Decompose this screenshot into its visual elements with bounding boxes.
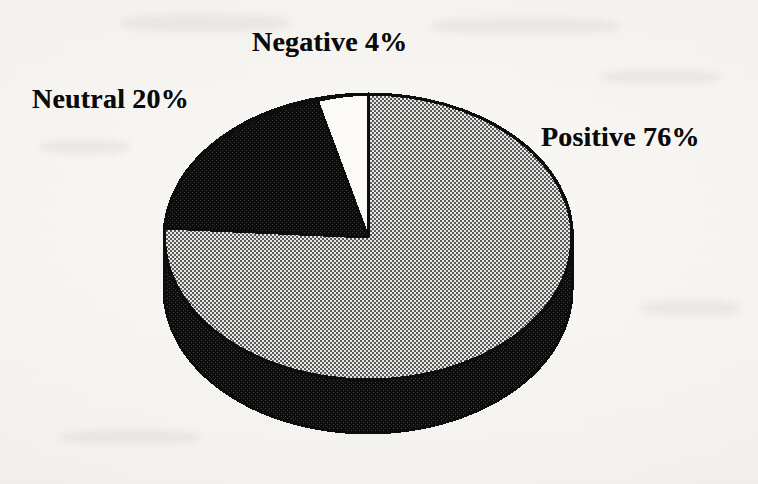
- slice-label-neutral: Neutral 20%: [32, 83, 189, 115]
- slice-label-negative: Negative 4%: [252, 26, 407, 58]
- pie-chart: [0, 0, 758, 484]
- scanned-figure-page: Negative 4% Neutral 20% Positive 76%: [0, 0, 758, 484]
- slice-label-positive: Positive 76%: [541, 121, 700, 153]
